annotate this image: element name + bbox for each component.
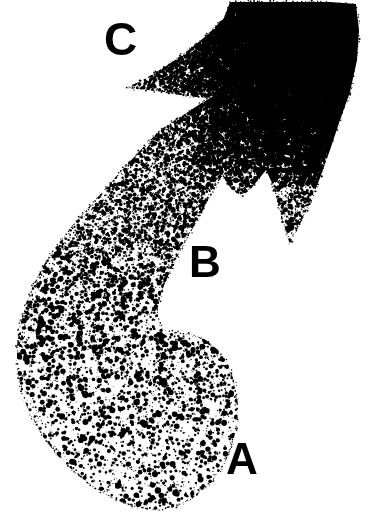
region-label-b: B [189,240,221,284]
region-label-c: C [104,16,137,62]
figure-root: A B C [0,0,369,525]
region-label-a: A [226,437,258,481]
stipple-density-plot [0,0,369,525]
